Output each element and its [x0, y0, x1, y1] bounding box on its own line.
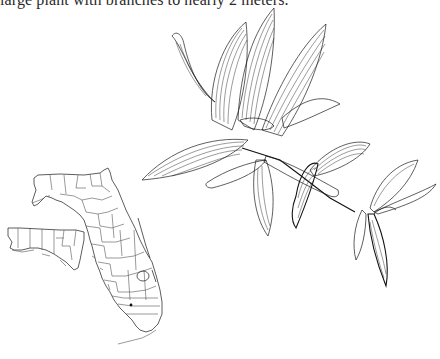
occurrence-dot: [130, 304, 133, 307]
plant-illustration: [142, 8, 436, 286]
page-figure: [0, 0, 440, 359]
florida-distribution-map: [8, 168, 162, 344]
